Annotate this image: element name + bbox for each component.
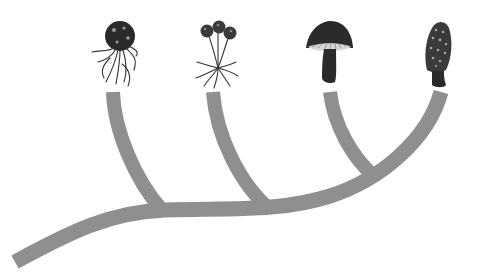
- spore-ball-with-hyphae-icon: [92, 21, 137, 86]
- tree-canvas: [0, 0, 485, 277]
- branch-tip-3: [330, 92, 376, 178]
- gilled-mushroom-icon: [306, 21, 353, 83]
- morel-mushroom-icon: [425, 22, 451, 87]
- branch-tip-2: [213, 92, 271, 210]
- trunk-branch: [15, 92, 441, 262]
- branch-tip-1: [113, 92, 162, 210]
- triple-sporangia-stalk-icon: [196, 21, 238, 89]
- phylogenetic-tree-diagram: [0, 0, 485, 277]
